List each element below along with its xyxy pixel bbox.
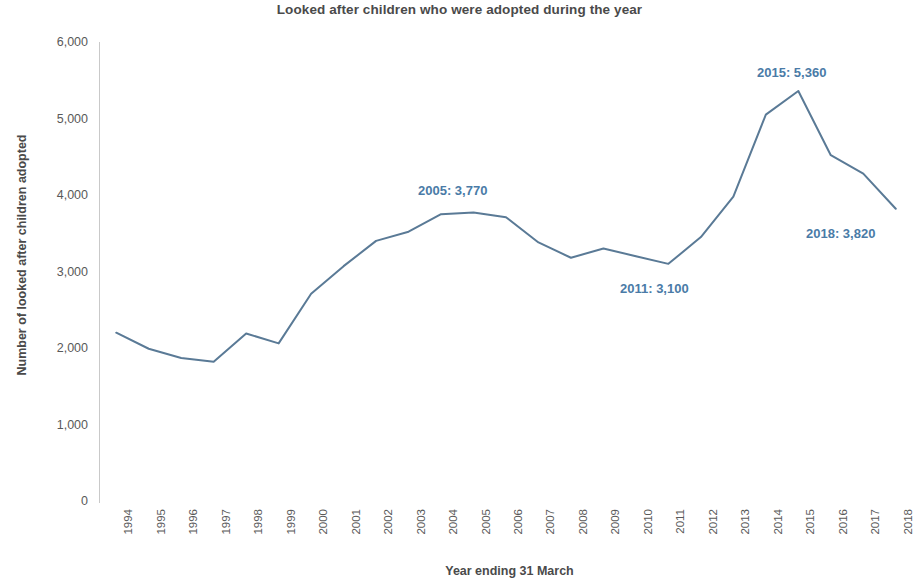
plot-area	[100, 42, 912, 501]
x-tick-label-2001: 2001	[350, 509, 362, 535]
x-tick-label-2018: 2018	[902, 509, 914, 535]
x-tick-label-2008: 2008	[577, 509, 589, 535]
x-axis-title: Year ending 31 March	[100, 564, 919, 578]
x-tick-label-1996: 1996	[187, 509, 199, 535]
x-tick-label-1998: 1998	[252, 509, 264, 535]
x-tick-label-2007: 2007	[544, 509, 556, 535]
y-tick-label: 0	[22, 494, 88, 508]
x-tick-label-2017: 2017	[869, 509, 881, 535]
y-tick-label: 3,000	[22, 265, 88, 279]
x-tick-label-2014: 2014	[772, 509, 784, 535]
y-tick-label: 4,000	[22, 188, 88, 202]
x-tick-label-2015: 2015	[804, 509, 816, 535]
y-tick-label: 6,000	[22, 35, 88, 49]
annotation-2015: 2015: 5,360	[757, 65, 826, 80]
series-line-adoptions	[100, 42, 912, 501]
x-tick-label-2004: 2004	[447, 509, 459, 535]
x-tick-label-1999: 1999	[285, 509, 297, 535]
x-tick-label-2013: 2013	[739, 509, 751, 535]
series-polyline	[116, 91, 896, 362]
annotation-2011: 2011: 3,100	[620, 281, 689, 296]
x-tick-label-1994: 1994	[122, 509, 134, 535]
y-axis-title: Number of looked after children adopted	[15, 45, 29, 465]
line-chart: Looked after children who were adopted d…	[0, 0, 919, 587]
x-tick-label-2011: 2011	[674, 509, 686, 534]
x-tick-label-2010: 2010	[642, 509, 654, 535]
x-tick-label-1997: 1997	[220, 509, 232, 535]
x-tick-label-2009: 2009	[609, 509, 621, 535]
x-tick-label-2005: 2005	[480, 509, 492, 535]
x-tick-label-1995: 1995	[155, 509, 167, 535]
y-tick-label: 1,000	[22, 418, 88, 432]
x-tick-label-2006: 2006	[512, 509, 524, 535]
x-tick-label-2016: 2016	[837, 509, 849, 535]
y-tick-label: 5,000	[22, 112, 88, 126]
chart-title: Looked after children who were adopted d…	[0, 2, 919, 17]
annotation-2018: 2018: 3,820	[806, 226, 875, 241]
x-tick-label-2012: 2012	[707, 509, 719, 535]
y-tick-label: 2,000	[22, 341, 88, 355]
annotation-2005: 2005: 3,770	[418, 183, 487, 198]
x-tick-label-2003: 2003	[415, 509, 427, 535]
x-tick-label-2000: 2000	[317, 509, 329, 535]
x-tick-label-2002: 2002	[382, 509, 394, 535]
